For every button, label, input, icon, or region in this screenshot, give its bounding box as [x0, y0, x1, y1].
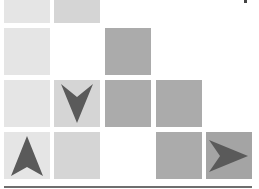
tile-r3-c0[interactable]: [4, 132, 50, 179]
board-baseline: [4, 186, 252, 188]
corner-marker: [244, 0, 247, 3]
tile-r1-c2[interactable]: [105, 28, 151, 75]
tile-r3-c4[interactable]: [206, 132, 252, 179]
tile-r1-c0[interactable]: [4, 28, 50, 75]
arrow-up-icon: [4, 132, 50, 179]
arrow-down-icon: [54, 80, 100, 127]
tile-r2-c2[interactable]: [105, 80, 151, 127]
tile-r3-c1[interactable]: [54, 132, 100, 179]
tile-r3-c3[interactable]: [156, 132, 202, 179]
tile-r2-c3[interactable]: [156, 80, 202, 127]
game-board: [0, 0, 259, 189]
tile-r2-c0[interactable]: [4, 80, 50, 127]
tile-r2-c1[interactable]: [54, 80, 100, 127]
arrow-right-icon: [206, 132, 252, 179]
tile-r0-c1[interactable]: [54, 0, 100, 23]
tile-r0-c0[interactable]: [4, 0, 50, 23]
